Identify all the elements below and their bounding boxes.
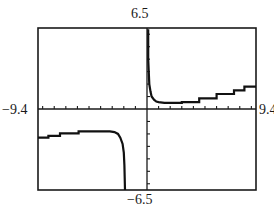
y-min-label: −6.5 [127, 193, 152, 207]
x-min-label: −9.4 [2, 103, 27, 117]
x-max-label: 9.4 [259, 103, 274, 117]
right-branch-curve [148, 29, 256, 103]
left-branch-curve [38, 131, 125, 190]
graph-plot [0, 0, 274, 208]
y-max-label: 6.5 [131, 7, 149, 21]
